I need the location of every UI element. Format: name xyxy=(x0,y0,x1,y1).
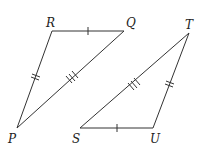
side-rp xyxy=(17,31,52,128)
side-ut xyxy=(153,33,189,128)
vertex-label-s: S xyxy=(72,132,80,146)
vertex-label-t: T xyxy=(185,18,194,32)
side-qp xyxy=(17,31,124,128)
tick-marks-qp xyxy=(66,71,78,83)
triangle-stu xyxy=(80,33,189,132)
side-st xyxy=(80,33,189,128)
vertex-label-r: R xyxy=(45,16,55,30)
triangle-pqr xyxy=(17,27,124,128)
vertex-label-q: Q xyxy=(126,16,136,30)
vertex-label-p: P xyxy=(7,132,17,146)
congruent-triangles-diagram: R Q P S U T xyxy=(0,0,204,149)
vertex-label-u: U xyxy=(150,132,161,146)
